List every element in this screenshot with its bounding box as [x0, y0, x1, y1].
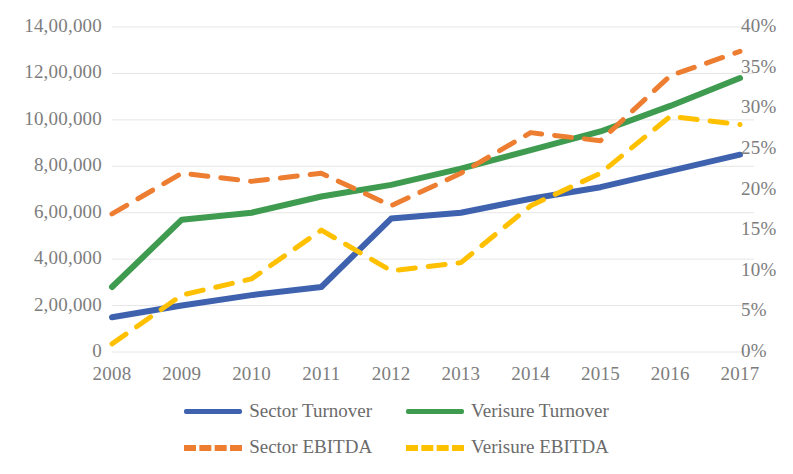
legend-row: Sector EBITDAVerisure EBITDA: [0, 436, 793, 458]
series-line: [112, 78, 740, 287]
series-lines: [112, 51, 740, 344]
y-axis-right-tick: 20%: [741, 178, 776, 200]
x-axis-tick: 2017: [705, 363, 775, 385]
x-axis-tick: 2011: [286, 363, 356, 385]
x-axis-tick: 2012: [356, 363, 426, 385]
legend-item[interactable]: Verisure EBITDA: [406, 436, 609, 458]
legend-label: Sector Turnover: [249, 400, 372, 422]
y-axis-left-tick: 6,00,000: [34, 201, 102, 223]
y-axis-right-tick: 30%: [741, 96, 776, 118]
legend-label: Verisure EBITDA: [471, 436, 609, 458]
legend-label: Verisure Turnover: [471, 400, 609, 422]
x-axis-tick: 2008: [77, 363, 147, 385]
x-axis-tick: 2016: [635, 363, 705, 385]
y-axis-left-tick: 10,00,000: [24, 108, 102, 130]
y-axis-left-tick: 12,00,000: [24, 61, 102, 83]
x-axis-tick: 2015: [565, 363, 635, 385]
x-axis-tick: 2009: [147, 363, 217, 385]
y-axis-left-tick: 4,00,000: [34, 247, 102, 269]
legend-item[interactable]: Sector Turnover: [184, 400, 372, 422]
y-axis-left-tick: 2,00,000: [34, 294, 102, 316]
chart-container: 02,00,0004,00,0006,00,0008,00,00010,00,0…: [0, 0, 793, 474]
y-axis-left-tick: 8,00,000: [34, 154, 102, 176]
legend-swatch: [406, 445, 464, 451]
legend-swatch: [184, 445, 242, 451]
x-axis-tick: 2010: [217, 363, 287, 385]
y-axis-right-tick: 35%: [741, 56, 776, 78]
x-axis-tick: 2013: [426, 363, 496, 385]
series-line: [112, 51, 740, 214]
legend-item[interactable]: Verisure Turnover: [406, 400, 609, 422]
y-axis-right-tick: 5%: [741, 299, 767, 321]
series-line: [112, 116, 740, 344]
legend-swatch: [184, 409, 242, 414]
y-axis-right-tick: 25%: [741, 137, 776, 159]
y-axis-left-tick: 0: [92, 340, 102, 362]
legend-label: Sector EBITDA: [249, 436, 372, 458]
y-axis-right-tick: 40%: [741, 15, 776, 37]
y-axis-left-tick: 14,00,000: [24, 15, 102, 37]
y-axis-right-tick: 0%: [741, 340, 767, 362]
y-axis-right-tick: 10%: [741, 259, 776, 281]
y-axis-right-tick: 15%: [741, 218, 776, 240]
chart-legend: Sector TurnoverVerisure TurnoverSector E…: [0, 400, 793, 472]
legend-item[interactable]: Sector EBITDA: [184, 436, 372, 458]
legend-swatch: [406, 409, 464, 414]
x-axis-tick: 2014: [496, 363, 566, 385]
legend-row: Sector TurnoverVerisure Turnover: [0, 400, 793, 422]
